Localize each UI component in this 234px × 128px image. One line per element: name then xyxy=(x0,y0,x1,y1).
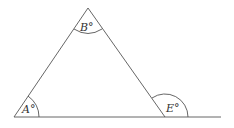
label-b: B° xyxy=(79,21,94,34)
side-bc xyxy=(88,8,165,117)
label-e: E° xyxy=(165,102,180,115)
label-a: A° xyxy=(21,103,35,116)
triangle-diagram: B° A° E° xyxy=(0,0,234,128)
side-ab xyxy=(14,8,88,117)
